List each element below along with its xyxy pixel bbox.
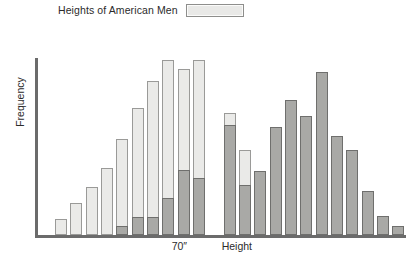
bar-slot: [40, 58, 52, 235]
bar-dark-series: [224, 125, 236, 235]
bar-group: [38, 58, 406, 235]
bar-dark-series: [239, 185, 251, 235]
bar-slot: [362, 58, 374, 235]
bar-slot: [316, 58, 328, 235]
x-axis-label: Height: [222, 240, 252, 252]
bar-dark-series: [300, 116, 312, 235]
bar-dark-series: [346, 150, 358, 235]
bar-slot: [346, 58, 358, 235]
bar-slot: [239, 58, 251, 235]
bar-dark-series: [392, 226, 404, 235]
bar-light-heights-of-american-men: [116, 139, 128, 235]
y-axis-label: Frequency: [14, 62, 26, 142]
bar-light-heights-of-american-men: [55, 219, 67, 235]
bar-slot: [162, 58, 174, 235]
bar-slot: [70, 58, 82, 235]
bar-dark-series: [147, 217, 159, 235]
bar-dark-series: [116, 226, 128, 235]
bar-slot: [377, 58, 389, 235]
bar-slot: [300, 58, 312, 235]
bar-light-heights-of-american-men: [132, 108, 144, 235]
bar-dark-series: [316, 72, 328, 235]
bar-slot: [132, 58, 144, 235]
bar-slot: [285, 58, 297, 235]
bar-dark-series: [362, 191, 374, 235]
bar-slot: [55, 58, 67, 235]
bar-slot: [116, 58, 128, 235]
x-axis-tick-label-70in: 70″: [172, 240, 187, 252]
bar-slot: [101, 58, 113, 235]
bar-dark-series: [132, 217, 144, 235]
x-axis-line: [35, 235, 406, 238]
bar-slot: [208, 58, 220, 235]
legend-label-heights-of-american-men: Heights of American Men: [58, 4, 178, 16]
bar-dark-series: [331, 136, 343, 235]
bar-slot: [224, 58, 236, 235]
bar-dark-series: [178, 170, 190, 235]
bar-light-heights-of-american-men: [101, 168, 113, 235]
bar-dark-series: [162, 198, 174, 235]
bar-slot: [178, 58, 190, 235]
bar-light-heights-of-american-men: [147, 81, 159, 235]
legend-swatch-icon: [186, 4, 244, 17]
bar-slot: [193, 58, 205, 235]
bar-light-heights-of-american-men: [70, 203, 82, 235]
bar-slot: [147, 58, 159, 235]
chart-canvas: Heights of American Men Frequency 70″ He…: [0, 0, 416, 270]
bar-dark-series: [285, 100, 297, 235]
bar-dark-series: [193, 178, 205, 235]
bar-light-heights-of-american-men: [86, 187, 98, 235]
bar-dark-series: [254, 171, 266, 235]
bar-slot: [392, 58, 404, 235]
chart-legend: Heights of American Men: [58, 2, 244, 18]
bar-slot: [331, 58, 343, 235]
bar-dark-series: [270, 127, 282, 235]
bar-slot: [254, 58, 266, 235]
bar-slot: [86, 58, 98, 235]
bar-dark-series: [377, 216, 389, 235]
bar-slot: [270, 58, 282, 235]
